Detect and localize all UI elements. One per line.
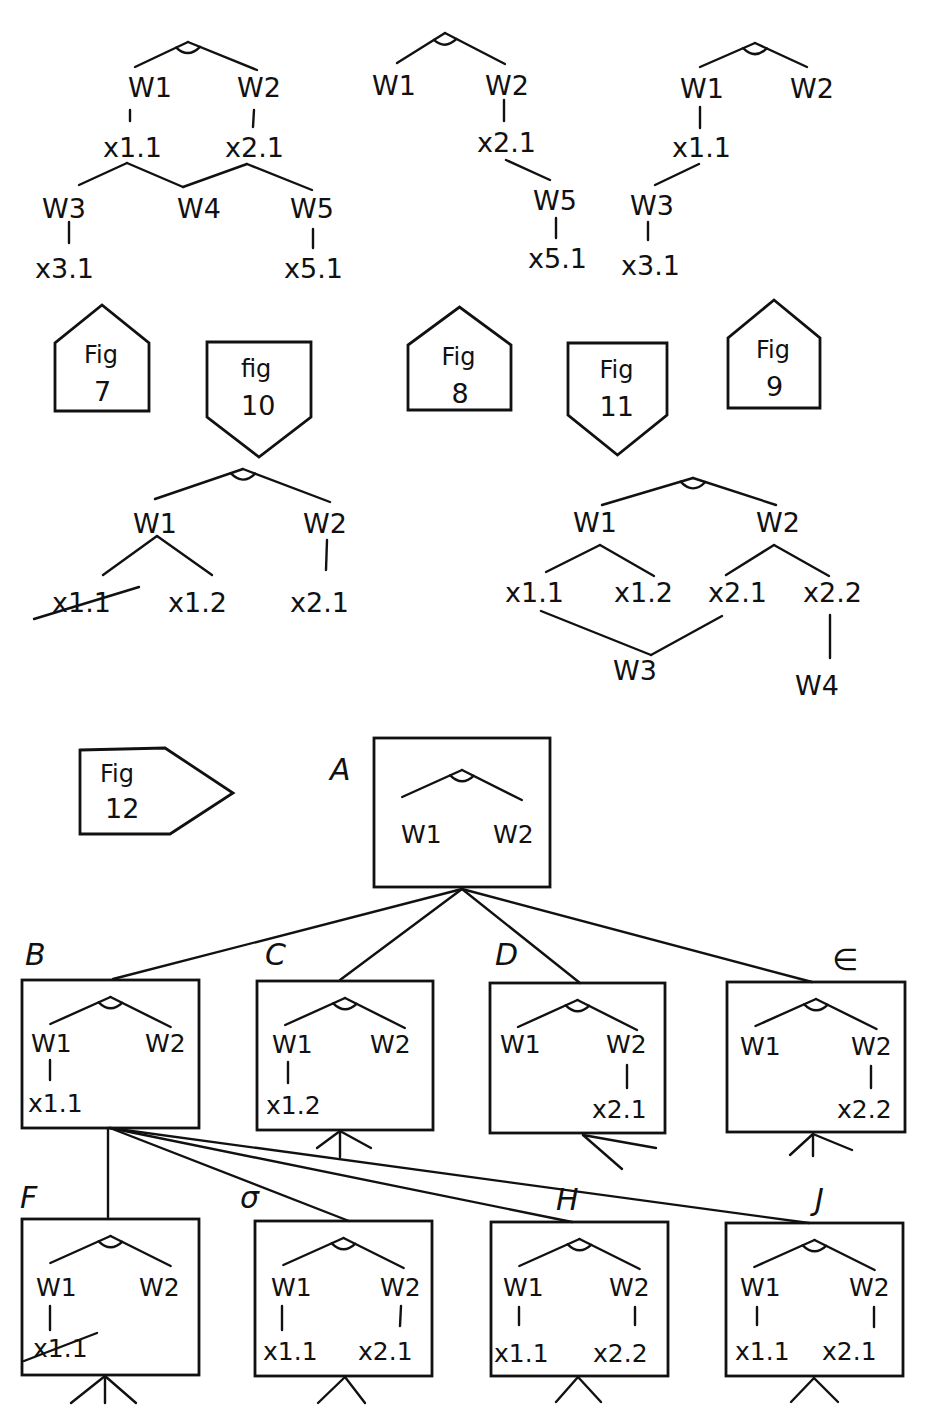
goal-w1: W1 bbox=[31, 1029, 72, 1058]
and-branch-left bbox=[285, 998, 345, 1025]
goal-node-x21: x2.1 bbox=[477, 127, 536, 158]
option-edge bbox=[400, 1306, 401, 1326]
and-branch-left bbox=[135, 42, 188, 67]
tag-label: Fig bbox=[756, 336, 790, 364]
and-branch-right bbox=[578, 1000, 638, 1030]
stub-line bbox=[345, 1377, 365, 1403]
goal-w2: W2 bbox=[493, 820, 534, 849]
goal-node-w2: W2 bbox=[303, 508, 347, 539]
option-x1-1: x1.1 bbox=[33, 1334, 88, 1363]
and-arc bbox=[231, 473, 255, 479]
tag-number: 11 bbox=[600, 391, 634, 422]
goal-w1: W1 bbox=[503, 1273, 544, 1302]
goal-node-x12: x1.2 bbox=[168, 587, 227, 618]
tree-edge bbox=[79, 163, 127, 185]
and-arc bbox=[99, 1002, 122, 1008]
goal-w2: W2 bbox=[380, 1273, 421, 1302]
and-branch-right bbox=[345, 998, 405, 1028]
goal-node-w5: W5 bbox=[290, 193, 334, 224]
state-letter-G: σ bbox=[240, 1180, 260, 1215]
goal-node-w4: W4 bbox=[177, 193, 221, 224]
and-arc-icon bbox=[50, 1236, 170, 1266]
tree-edge bbox=[541, 611, 651, 655]
goal-node-w1: W1 bbox=[133, 508, 177, 539]
continuation-stub-J bbox=[791, 1378, 838, 1402]
and-arc bbox=[332, 1243, 355, 1249]
goal-w1: W1 bbox=[401, 820, 442, 849]
tree-fig7: W1W2x1.1x2.1W3W4W5x3.1x5.1 bbox=[35, 42, 343, 284]
goal-node-x22: x2.2 bbox=[803, 577, 862, 608]
and-arc-icon bbox=[50, 997, 170, 1027]
continuation-stub-H bbox=[556, 1377, 601, 1402]
and-branch-right bbox=[816, 999, 877, 1029]
tree-edge bbox=[247, 164, 312, 190]
and-arc-icon bbox=[285, 998, 405, 1028]
tree-edge bbox=[103, 536, 157, 575]
and-branch-right bbox=[111, 1236, 171, 1266]
and-arc bbox=[434, 39, 457, 45]
goal-node-w5: W5 bbox=[533, 185, 577, 216]
stub-line bbox=[814, 1378, 838, 1402]
goal-w2: W2 bbox=[606, 1030, 647, 1059]
state-box-C: CW1W2x1.2 bbox=[257, 937, 433, 1130]
search-tree-link bbox=[110, 1128, 809, 1223]
goal-node-x31: x3.1 bbox=[621, 250, 680, 281]
option-x1-2: x1.2 bbox=[266, 1091, 321, 1120]
stub-line bbox=[340, 1131, 371, 1148]
goal-node-x11: x1.1 bbox=[103, 132, 162, 163]
goal-w2: W2 bbox=[849, 1273, 890, 1302]
and-branch-right bbox=[188, 42, 257, 70]
option-x1-1: x1.1 bbox=[735, 1337, 790, 1366]
goal-node-x11: x1.1 bbox=[672, 132, 731, 163]
tree-edge bbox=[655, 164, 699, 185]
and-branch-right bbox=[580, 1239, 640, 1269]
goal-w2: W2 bbox=[609, 1273, 650, 1302]
goal-node-w2: W2 bbox=[237, 72, 281, 103]
and-arc-icon bbox=[755, 999, 876, 1029]
stub-line bbox=[71, 1376, 105, 1403]
tree-edge bbox=[183, 164, 247, 187]
and-arc-icon bbox=[518, 1000, 637, 1030]
state-box-D: DW1W2x2.1 bbox=[490, 937, 665, 1133]
and-branch-right bbox=[815, 1240, 875, 1270]
state-box-frame bbox=[374, 738, 550, 887]
and-branch-right bbox=[755, 43, 807, 67]
option-x1-1: x1.1 bbox=[28, 1089, 83, 1118]
state-letter-F: F bbox=[20, 1180, 38, 1215]
goal-node-w2: W2 bbox=[485, 70, 529, 101]
tag-label: Fig bbox=[442, 343, 476, 371]
and-arc-icon bbox=[700, 43, 807, 67]
search-tree-link bbox=[110, 1128, 349, 1221]
tag-number: 12 bbox=[105, 793, 139, 824]
stub-line bbox=[578, 1377, 601, 1402]
state-letter-B: B bbox=[25, 937, 46, 972]
goal-node-x12: x1.2 bbox=[614, 577, 673, 608]
state-box-A: AW1W2 bbox=[328, 738, 550, 887]
and-branch-left bbox=[519, 1239, 579, 1266]
and-branch-left bbox=[397, 33, 445, 63]
and-arc bbox=[568, 1244, 591, 1250]
state-box-E: ∈W1W2x2.2 bbox=[727, 942, 905, 1132]
and-arc-icon bbox=[519, 1239, 639, 1269]
state-letter-H: H bbox=[556, 1182, 579, 1217]
and-arc-icon bbox=[155, 469, 330, 502]
and-arc bbox=[803, 1245, 826, 1251]
state-letter-E: ∈ bbox=[832, 942, 858, 977]
option-x2-2: x2.2 bbox=[837, 1095, 892, 1124]
option-x2-1: x2.1 bbox=[592, 1095, 647, 1124]
tree-edge bbox=[253, 110, 254, 127]
and-arc-icon bbox=[402, 770, 522, 800]
goal-w1: W1 bbox=[271, 1273, 312, 1302]
tree-edge bbox=[127, 163, 183, 187]
tag-number: 9 bbox=[766, 371, 783, 402]
state-letter-D: D bbox=[495, 937, 518, 972]
tree-edge bbox=[726, 545, 774, 575]
goal-node-x11: x1.1 bbox=[505, 577, 564, 608]
tag-label: Fig bbox=[84, 341, 118, 369]
option-x1-1: x1.1 bbox=[494, 1339, 549, 1368]
tree-fig10: W1W2x1.1x1.2x2.1 bbox=[34, 469, 349, 619]
figure-tag-fig10: fig10 bbox=[207, 342, 311, 457]
and-arc bbox=[176, 47, 200, 53]
goal-w2: W2 bbox=[145, 1029, 186, 1058]
and-branch-left bbox=[402, 770, 462, 797]
